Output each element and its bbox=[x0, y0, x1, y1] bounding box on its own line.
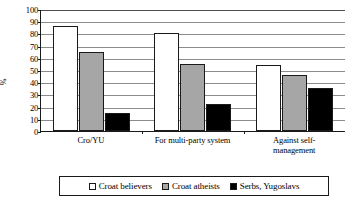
y-axis-tickmark bbox=[38, 108, 41, 109]
x-axis-category-labels: Cro/YUFor multi-party systemAgainst self… bbox=[40, 135, 345, 155]
gray-square-swatch bbox=[162, 183, 169, 190]
x-axis-tickmark bbox=[142, 131, 143, 134]
black-square-swatch bbox=[230, 183, 237, 190]
legend-item: Croat believers bbox=[89, 182, 152, 191]
y-axis-tick-label: 50 bbox=[14, 67, 38, 76]
y-axis-tick-label: 10 bbox=[14, 116, 38, 125]
legend-item-label: Croat atheists bbox=[172, 182, 220, 191]
y-axis-tickmark bbox=[38, 132, 41, 133]
legend-item-label: Serbs, Yugoslavs bbox=[240, 182, 300, 191]
y-axis-tick-label: 30 bbox=[14, 91, 38, 100]
y-axis-tick-label: 90 bbox=[14, 18, 38, 27]
bar bbox=[282, 75, 307, 131]
y-axis-tick-label: 0 bbox=[14, 128, 38, 137]
y-axis-tick-label: 100 bbox=[14, 6, 38, 15]
white-square-swatch bbox=[89, 183, 96, 190]
bar bbox=[154, 33, 179, 131]
y-axis-tickmark bbox=[38, 59, 41, 60]
bar bbox=[53, 26, 78, 131]
bar bbox=[79, 52, 104, 131]
bar-groups bbox=[41, 10, 345, 131]
y-axis-tickmark bbox=[38, 71, 41, 72]
bar-group bbox=[41, 10, 142, 131]
y-axis-tickmark bbox=[38, 22, 41, 23]
bar-group bbox=[244, 10, 345, 131]
bar bbox=[256, 65, 281, 131]
plot-area bbox=[40, 10, 345, 132]
y-axis-tickmark bbox=[38, 120, 41, 121]
bar bbox=[105, 113, 130, 131]
bar bbox=[180, 64, 205, 131]
y-axis-tickmark bbox=[38, 95, 41, 96]
y-axis-tickmark bbox=[38, 47, 41, 48]
y-axis-tick-label: 40 bbox=[14, 79, 38, 88]
x-axis-category-label: Cro/YU bbox=[40, 135, 142, 155]
y-axis-tickmark bbox=[38, 34, 41, 35]
y-axis-tick-label: 70 bbox=[14, 43, 38, 52]
y-axis-tickmark bbox=[38, 10, 41, 11]
y-axis-tick-label: 80 bbox=[14, 30, 38, 39]
x-axis-category-label: Against self-management bbox=[243, 135, 345, 155]
x-axis-category-label: For multi-party system bbox=[142, 135, 244, 155]
bar-group bbox=[142, 10, 243, 131]
bar bbox=[308, 88, 333, 131]
bar bbox=[206, 104, 231, 131]
y-axis-tick-label: 60 bbox=[14, 55, 38, 64]
legend-item: Serbs, Yugoslavs bbox=[230, 182, 300, 191]
legend-item: Croat atheists bbox=[162, 182, 220, 191]
legend-item-label: Croat believers bbox=[99, 182, 152, 191]
chart-legend: Croat believersCroat atheistsSerbs, Yugo… bbox=[59, 176, 329, 196]
y-axis-tick-labels: 1009080706050403020100 bbox=[14, 10, 38, 132]
x-axis-tickmark bbox=[244, 131, 245, 134]
y-axis-tick-label: 20 bbox=[14, 104, 38, 113]
y-axis-tickmark bbox=[38, 83, 41, 84]
bar-chart: % 1009080706050403020100 Cro/YUFor multi… bbox=[0, 0, 358, 209]
